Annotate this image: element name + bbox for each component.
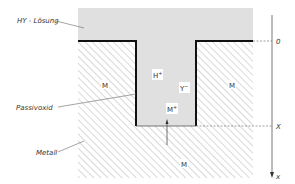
metal-bottom-label: M <box>181 161 187 169</box>
pitting-corrosion-diagram: HY - Lösung Passivoxid Metall M M M H+ Y… <box>0 0 295 184</box>
axis-variable-label: x <box>275 173 281 181</box>
metal-label: Metall <box>36 149 57 157</box>
metal-right-label: M <box>229 82 235 90</box>
axis-zero-label: 0 <box>276 38 281 46</box>
metal-left-label: M <box>102 82 108 90</box>
passive-oxide-label: Passivoxid <box>16 104 53 112</box>
axis-arrow-icon <box>270 172 274 178</box>
solution-label: HY - Lösung <box>17 17 59 25</box>
solution-region <box>78 8 253 41</box>
axis-depth-label: X <box>275 123 281 131</box>
